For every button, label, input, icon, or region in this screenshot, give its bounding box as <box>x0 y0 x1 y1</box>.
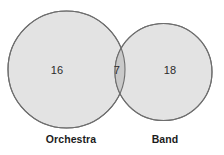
count-intersection: 7 <box>114 65 120 76</box>
set-label-band: Band <box>152 134 179 145</box>
venn-diagram: 16 7 18 Orchestra Band <box>0 0 224 155</box>
set-label-orchestra: Orchestra <box>46 134 97 145</box>
venn-diagram-canvas <box>0 0 224 155</box>
venn-circle-left <box>8 11 125 128</box>
count-right-only: 18 <box>164 65 177 76</box>
count-left-only: 16 <box>51 65 64 76</box>
